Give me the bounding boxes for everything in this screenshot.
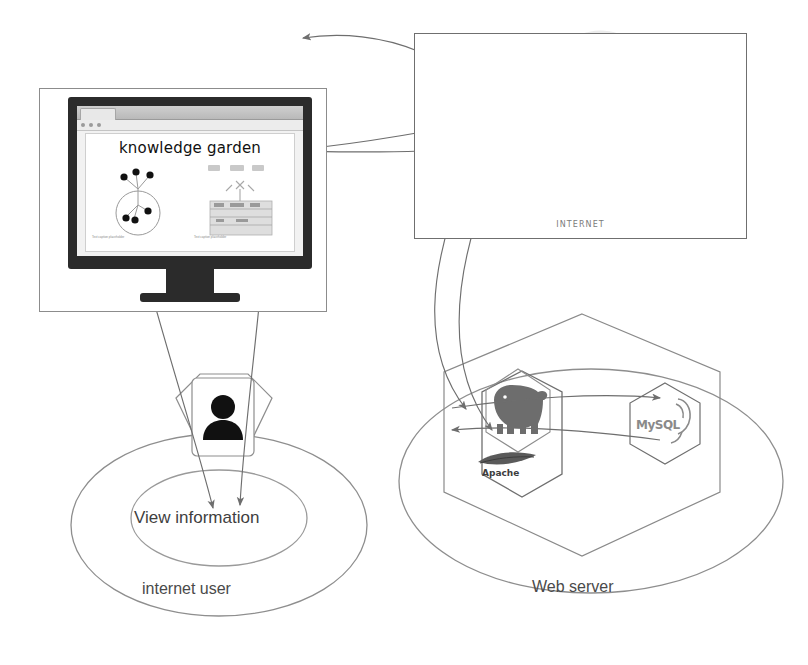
monitor-stand-neck [166,269,214,295]
forward-icon[interactable] [89,123,93,127]
apache-feather-icon [478,452,536,464]
web-server-label: Web server [532,578,614,596]
knowledge-graph-figure: Text caption placeholder [86,161,190,249]
internet-user-actor [176,374,272,456]
php-elephant-icon [494,385,547,434]
internet-box: INTERNET [414,33,747,239]
web-page: knowledge garden [85,133,295,252]
monitor-stand-base [140,293,240,302]
client-computer-monitor: knowledge garden [39,88,327,312]
internet-label: INTERNET [415,220,746,229]
web-server-hexagon [444,314,720,556]
mysql-label: MySQL [636,418,680,432]
internet-user-label: internet user [142,580,231,598]
right-caption: Text caption placeholder [194,235,226,239]
web-server-boundary [399,369,783,593]
browser-toolbar [77,120,303,131]
detail-figure: Text caption placeholder [190,161,294,249]
monitor-bezel: knowledge garden [68,97,312,269]
page-title: knowledge garden [86,139,294,157]
back-icon[interactable] [81,123,85,127]
apache-label: Apache [482,468,519,478]
browser-titlebar [77,106,303,120]
view-information-label: View information [134,508,259,528]
browser-tab[interactable] [80,108,116,120]
monitor-screen: knowledge garden [77,106,303,256]
left-caption: Text caption placeholder [92,235,124,239]
reload-icon[interactable] [97,123,101,127]
